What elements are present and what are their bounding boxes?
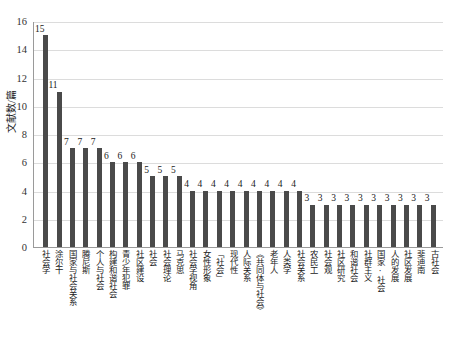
x-label-slot: 老年人 [266, 250, 279, 332]
x-axis-category-label: 《共同体与社会》 [255, 250, 264, 332]
x-label-slot: 女性形象 [199, 250, 212, 332]
bar [97, 148, 102, 247]
bar-slot: 3 [306, 22, 319, 247]
bar-slot: 4 [213, 22, 226, 247]
bar-value-label: 3 [318, 194, 323, 204]
x-label-slot: 构建和谐社会 [105, 250, 118, 332]
x-axis-category-label: 青少年犯罪 [121, 250, 130, 332]
y-axis-tick: 2 [22, 215, 27, 226]
x-axis-category-label: 社会观 [322, 250, 331, 332]
x-label-slot: 社会关系 [293, 250, 306, 332]
x-label-slot: 古社会 [427, 250, 440, 332]
x-axis-category-label: 腾尼斯 [81, 250, 90, 332]
bar [163, 176, 168, 247]
bar [190, 191, 195, 248]
bar-value-label: 3 [371, 194, 376, 204]
bar-slot: 7 [66, 22, 79, 247]
bar [110, 162, 115, 247]
x-axis-category-label: 古社会 [429, 250, 438, 332]
bar-slot: 4 [226, 22, 239, 247]
x-axis-category-label: 社会学 [40, 250, 49, 332]
bar [230, 191, 235, 248]
bar [83, 148, 88, 247]
bar-value-label: 6 [117, 152, 122, 162]
bar-value-label: 7 [91, 138, 96, 148]
x-axis-category-label: 「社会」 [215, 250, 224, 332]
bar-slot: 4 [239, 22, 252, 247]
bar-value-label: 7 [64, 138, 69, 148]
bar [377, 205, 382, 247]
bar [150, 176, 155, 247]
x-axis-category-label: 个人与社会 [94, 250, 103, 332]
bar-slot: 3 [360, 22, 373, 247]
bar-value-label: 4 [224, 180, 229, 190]
x-axis-category-label: 国家·社会 [376, 250, 385, 332]
bar-value-label: 15 [35, 25, 45, 35]
x-label-slot: 个人与社会 [92, 250, 105, 332]
bar-slot: 11 [52, 22, 65, 247]
bar-value-label: 4 [264, 180, 269, 190]
bar-slot: 7 [92, 22, 105, 247]
bar [364, 205, 369, 247]
bar [431, 205, 436, 247]
y-axis-tick: 16 [17, 17, 28, 28]
x-label-slot: 农民工 [306, 250, 319, 332]
bar-value-label: 4 [184, 180, 189, 190]
x-axis-category-label: 涂尔干 [54, 250, 63, 332]
x-label-slot: 社区建设 [132, 250, 145, 332]
x-axis-category-label: 社区建设 [134, 250, 143, 332]
x-label-slot: 社会学视角 [185, 250, 198, 332]
x-axis-category-label: 社群主义 [362, 250, 371, 332]
bar-value-label: 3 [425, 194, 430, 204]
x-axis-category-label: 现代性 [228, 250, 237, 332]
x-label-slot: 现代性 [226, 250, 239, 332]
bar-slot: 4 [186, 22, 199, 247]
bar-value-label: 4 [211, 180, 216, 190]
bar-value-label: 3 [331, 194, 336, 204]
x-label-slot: 社区发展 [400, 250, 413, 332]
bar-value-label: 4 [238, 180, 243, 190]
bar [270, 191, 275, 248]
bar-slot: 3 [373, 22, 386, 247]
x-label-slot: 社会学 [38, 250, 51, 332]
y-axis-tick: 8 [22, 130, 27, 141]
x-label-slot: 国家与社会关系 [65, 250, 78, 332]
bar [391, 205, 396, 247]
x-axis-category-label: 斐迪南 [416, 250, 425, 332]
bar-slot: 3 [333, 22, 346, 247]
y-axis-tick-labels: 0246810121416 [0, 22, 31, 248]
x-label-slot: 涂尔干 [51, 250, 64, 332]
figure-container: 文献数/篇 0246810121416 15117776665554444444… [0, 0, 454, 349]
bar-slot: 15 [39, 22, 52, 247]
bar-value-label: 3 [385, 194, 390, 204]
bar [203, 191, 208, 248]
x-label-slot: 人的发展 [387, 250, 400, 332]
x-axis-category-labels: 社会学涂尔干国家与社会关系腾尼斯个人与社会构建和谐社会青少年犯罪社区建设社会社会… [34, 250, 443, 332]
bar [257, 191, 262, 248]
bar-value-label: 3 [304, 194, 309, 204]
bar [324, 205, 329, 247]
bar-value-label: 7 [77, 138, 82, 148]
x-label-slot: 「社会」 [212, 250, 225, 332]
bar-slot: 3 [386, 22, 399, 247]
x-label-slot: 人际关系 [239, 250, 252, 332]
bar [217, 191, 222, 248]
bar [123, 162, 128, 247]
x-label-slot: 社区研究 [333, 250, 346, 332]
bar [137, 162, 142, 247]
x-label-slot: 腾尼斯 [78, 250, 91, 332]
x-axis-category-label: 社区研究 [335, 250, 344, 332]
x-label-slot: 人类学 [279, 250, 292, 332]
bar-value-label: 6 [104, 152, 109, 162]
y-axis-tick: 4 [22, 186, 27, 197]
x-label-slot: 斐迪南 [413, 250, 426, 332]
x-axis-category-label: 老年人 [268, 250, 277, 332]
bar-value-label: 3 [358, 194, 363, 204]
x-label-slot: 青少年犯罪 [118, 250, 131, 332]
x-axis-category-label: 马克思 [174, 250, 183, 332]
bar-value-label: 4 [291, 180, 296, 190]
bar [43, 35, 48, 247]
x-label-slot: 《共同体与社会》 [253, 250, 266, 332]
y-axis-tick: 0 [22, 243, 27, 254]
bar-slot: 4 [279, 22, 292, 247]
